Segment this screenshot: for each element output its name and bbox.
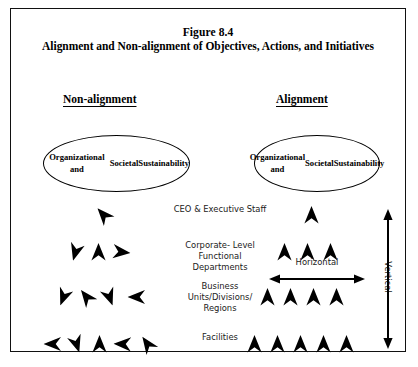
horizontal-measure-label: Horizontal	[269, 257, 365, 267]
alignment-arrow-icon-r4-2	[270, 335, 285, 353]
oval-organizational-societal-sustainability-right: Organizational and Societal Sustainabili…	[254, 135, 380, 192]
row-label-business: Business Units/Divisions/ Regions	[170, 281, 270, 314]
alignment-arrow-icon-r3-3	[306, 288, 321, 306]
nonalignment-arrow-icon-r3-2	[75, 285, 98, 308]
nonalignment-arrow-icon-r4-1	[44, 337, 62, 352]
oval-left-line1: Organizational and	[44, 152, 110, 175]
nonalignment-arrow-icon-r4-3	[92, 335, 107, 353]
oval-organizational-societal-sustainability-left: Organizational and Societal Sustainabili…	[43, 135, 190, 192]
alignment-arrow-icon-r4-5	[339, 335, 354, 353]
nonalignment-arrow-icon-r4-2	[67, 333, 87, 355]
figure-title-line1: Figure 8.4	[11, 25, 405, 39]
alignment-arrow-icon-r3-4	[329, 288, 344, 306]
nonalignment-arrow-icon-r2-1	[66, 241, 85, 262]
nonalignment-arrow-icon-r4-5	[136, 332, 159, 355]
alignment-arrow-icon-r3-2	[283, 288, 298, 306]
oval-right-line2: Societal	[305, 158, 334, 169]
nonalignment-arrow-icon-r2-3	[112, 244, 131, 261]
oval-left-line2: Societal	[110, 158, 139, 169]
nonalignment-arrow-icon-r3-4	[128, 290, 146, 305]
oval-right-line3: Sustainability	[334, 158, 385, 169]
figure-title-line2: Alignment and Non-alignment of Objective…	[11, 39, 405, 53]
nonalignment-arrow-icon-r2-2	[91, 243, 106, 261]
nonalignment-arrow-icon-r1-1	[92, 203, 115, 226]
alignment-arrow-icon-r3-1	[260, 288, 275, 306]
figure-border: Figure 8.4 Alignment and Non-alignment o…	[10, 8, 406, 352]
oval-right-line1: Organizational and	[250, 152, 305, 175]
column-heading-alignment: Alignment	[276, 93, 328, 105]
figure-title: Figure 8.4 Alignment and Non-alignment o…	[11, 25, 405, 53]
column-heading-nonalignment: Non-alignment	[63, 93, 136, 105]
vertical-double-arrow-icon	[382, 209, 394, 349]
alignment-arrow-icon-r4-1	[247, 335, 262, 353]
row-label-ceo: CEO & Executive Staff	[170, 204, 270, 215]
nonalignment-arrow-icon-r3-3	[99, 286, 119, 308]
alignment-arrow-icon-r4-3	[293, 335, 308, 353]
horizontal-double-arrow-icon	[269, 271, 365, 283]
oval-left-line3: Sustainability	[138, 158, 189, 169]
nonalignment-arrow-icon-r4-4	[113, 336, 132, 352]
alignment-arrow-icon-r1-1	[304, 206, 319, 224]
alignment-arrow-icon-r4-4	[316, 335, 331, 353]
nonalignment-arrow-icon-r3-1	[53, 286, 73, 308]
row-label-corporate: Corporate- Level Functional Departments	[170, 240, 270, 273]
